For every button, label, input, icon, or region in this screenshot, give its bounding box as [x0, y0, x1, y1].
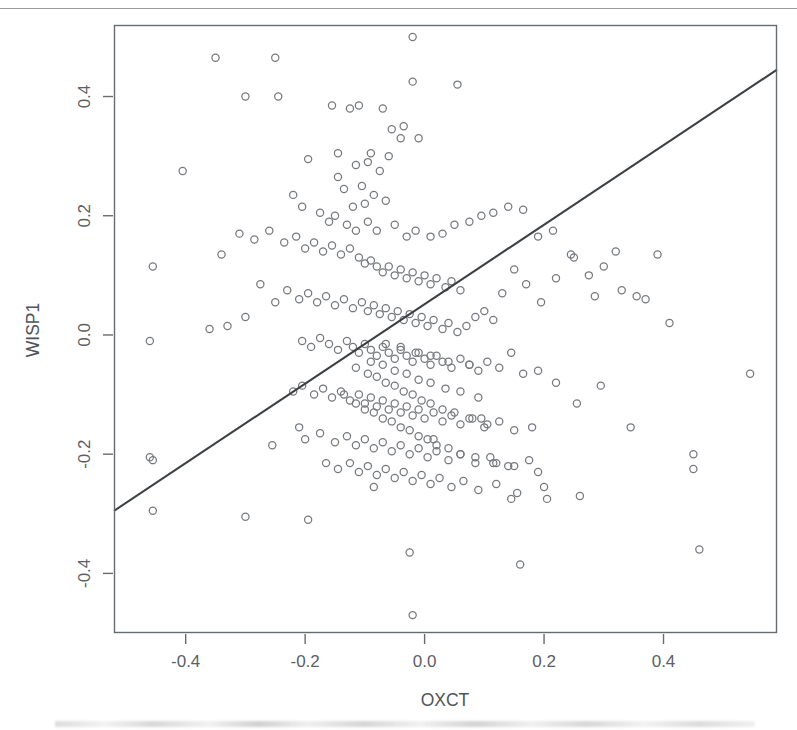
data-point — [364, 218, 371, 225]
data-point — [600, 263, 607, 270]
data-point — [319, 248, 326, 255]
data-point — [284, 287, 291, 294]
data-point — [523, 281, 530, 288]
data-point — [334, 465, 341, 472]
data-point — [430, 316, 437, 323]
data-point — [382, 197, 389, 204]
data-point — [179, 167, 186, 174]
data-point — [364, 463, 371, 470]
data-point — [529, 424, 536, 431]
data-point — [552, 379, 559, 386]
data-point — [337, 251, 344, 258]
data-point — [373, 352, 380, 359]
data-point — [493, 480, 500, 487]
data-point — [385, 263, 392, 270]
data-point — [445, 457, 452, 464]
data-point — [397, 424, 404, 431]
data-point — [403, 233, 410, 240]
data-point — [340, 296, 347, 303]
data-point — [346, 105, 353, 112]
data-point — [349, 203, 356, 210]
data-point — [454, 81, 461, 88]
data-point — [367, 394, 374, 401]
data-points-layer — [146, 33, 753, 618]
data-point — [747, 370, 754, 377]
data-point — [310, 239, 317, 246]
data-point — [412, 227, 419, 234]
x-tick-label: -0.4 — [171, 652, 200, 671]
data-point — [460, 477, 467, 484]
data-point — [475, 394, 482, 401]
data-point — [633, 293, 640, 300]
x-tick-label: -0.2 — [290, 652, 319, 671]
data-point — [406, 427, 413, 434]
data-point — [445, 319, 452, 326]
data-point — [436, 474, 443, 481]
data-point — [331, 439, 338, 446]
data-point — [627, 424, 634, 431]
data-point — [403, 275, 410, 282]
data-point — [212, 54, 219, 61]
data-point — [391, 221, 398, 228]
data-point — [302, 245, 309, 252]
data-point — [696, 546, 703, 553]
data-point — [367, 346, 374, 353]
regression-trendline — [114, 70, 777, 511]
data-point — [445, 445, 452, 452]
data-point — [496, 364, 503, 371]
data-point — [257, 281, 264, 288]
data-point — [576, 492, 583, 499]
data-point — [403, 352, 410, 359]
data-point — [549, 227, 556, 234]
data-point — [382, 465, 389, 472]
data-point — [367, 150, 374, 157]
data-point — [505, 203, 512, 210]
data-point — [331, 302, 338, 309]
data-point — [457, 388, 464, 395]
data-point — [409, 477, 416, 484]
data-point — [418, 471, 425, 478]
data-point — [316, 334, 323, 341]
data-point — [355, 102, 362, 109]
y-axis-ticks: 0.40.20.0-0.2-0.4 — [75, 85, 113, 588]
x-tick-label: 0.4 — [652, 652, 676, 671]
data-point — [496, 418, 503, 425]
data-point — [534, 233, 541, 240]
data-point — [573, 400, 580, 407]
data-point — [427, 379, 434, 386]
data-point — [328, 102, 335, 109]
data-point — [379, 397, 386, 404]
data-point — [543, 495, 550, 502]
data-point — [430, 409, 437, 416]
data-point — [388, 448, 395, 455]
data-point — [534, 367, 541, 374]
data-point — [400, 388, 407, 395]
data-point — [427, 233, 434, 240]
x-tick-label: 0.2 — [532, 652, 556, 671]
data-point — [451, 221, 458, 228]
data-point — [367, 358, 374, 365]
data-point — [475, 367, 482, 374]
data-point — [400, 468, 407, 475]
data-point — [299, 337, 306, 344]
data-point — [397, 409, 404, 416]
y-tick-label: 0.4 — [75, 85, 94, 109]
data-point — [427, 400, 434, 407]
scatter-plot: -0.4-0.20.00.20.4 0.40.20.0-0.2-0.4 OXCT… — [0, 0, 797, 730]
data-point — [540, 483, 547, 490]
data-point — [409, 78, 416, 85]
data-point — [319, 385, 326, 392]
data-point — [385, 349, 392, 356]
data-point — [352, 442, 359, 449]
data-point — [379, 269, 386, 276]
data-point — [526, 457, 533, 464]
data-point — [537, 299, 544, 306]
data-point — [478, 415, 485, 422]
data-point — [316, 209, 323, 216]
data-point — [355, 254, 362, 261]
data-point — [475, 486, 482, 493]
data-point — [618, 287, 625, 294]
data-point — [346, 460, 353, 467]
data-point — [364, 308, 371, 315]
data-point — [415, 406, 422, 413]
